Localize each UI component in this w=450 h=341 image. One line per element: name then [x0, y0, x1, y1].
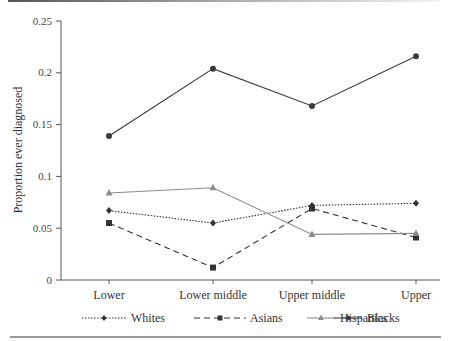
diamond-marker-icon — [413, 200, 419, 207]
diamond-marker-icon — [106, 207, 112, 214]
circle-marker-icon — [106, 133, 112, 139]
circle-marker-icon — [413, 53, 419, 59]
series-blacks — [106, 53, 419, 139]
y-tick-label: 0.1 — [38, 170, 52, 182]
diamond-marker-icon — [210, 220, 216, 227]
y-tick-label: 0.15 — [33, 118, 53, 130]
series-asians — [106, 206, 419, 271]
triangle-marker-icon — [106, 189, 113, 196]
triangle-marker-icon — [413, 229, 420, 236]
series-whites — [106, 200, 419, 227]
circle-marker-icon — [210, 66, 216, 72]
triangle-marker-icon — [318, 315, 324, 321]
y-axis: 00.050.10.150.20.25 — [33, 15, 61, 286]
x-tick-label: Lower middle — [179, 288, 247, 302]
legend-label: Whites — [131, 311, 165, 325]
legend-item-whites: Whites — [82, 311, 165, 325]
y-axis-title: Proportion ever diagnosed — [11, 87, 25, 214]
x-tick-label: Lower — [93, 288, 124, 302]
diamond-marker-icon — [102, 315, 107, 321]
triangle-marker-icon — [210, 184, 217, 191]
circle-marker-icon — [346, 316, 351, 321]
line-chart: 00.050.10.150.20.25 LowerLower middleUpp… — [0, 0, 450, 341]
circle-marker-icon — [309, 103, 315, 109]
x-axis: LowerLower middleUpper middleUpper — [61, 280, 440, 302]
square-marker-icon — [210, 265, 216, 271]
legend-label: Blacks — [367, 311, 400, 325]
x-tick-label: Upper — [401, 288, 431, 302]
legend-item-asians: Asians — [194, 311, 283, 325]
legend-label: Asians — [250, 311, 283, 325]
y-tick-label: 0.25 — [33, 15, 53, 27]
square-marker-icon — [218, 316, 223, 321]
series-layer — [106, 53, 420, 270]
y-tick-label: 0.05 — [33, 222, 53, 234]
x-tick-label: Upper middle — [279, 288, 345, 302]
y-tick-label: 0 — [47, 274, 53, 286]
legend: WhitesAsiansHispanicsBlacks — [82, 311, 400, 325]
square-marker-icon — [309, 206, 315, 212]
series-hispanics — [106, 184, 420, 237]
square-marker-icon — [106, 220, 112, 226]
top-rule — [8, 0, 440, 2]
y-tick-label: 0.2 — [38, 66, 52, 78]
